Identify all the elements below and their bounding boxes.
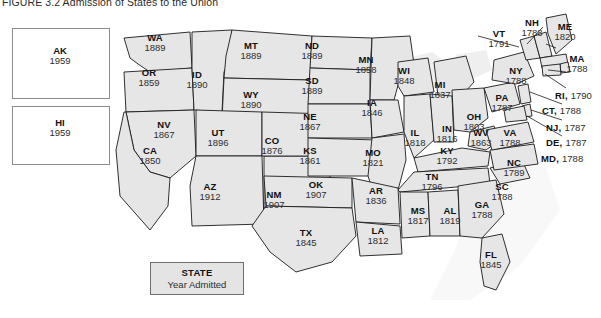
state-label-nc[interactable]: NC 1789 (494, 158, 534, 178)
state-year-mn: 1858 (344, 65, 388, 75)
state-label-nm[interactable]: NM 1907 (252, 190, 296, 210)
state-year-ri: 1790 (571, 90, 592, 101)
state-label-or[interactable]: OR 1859 (127, 68, 171, 88)
state-year-ut: 1896 (198, 138, 238, 148)
state-year-in: 1816 (428, 134, 466, 144)
state-year-or: 1859 (127, 78, 171, 88)
state-label-ny[interactable]: NY 1788 (496, 66, 536, 86)
state-label-ct[interactable]: CT1788 (542, 101, 581, 117)
state-label-ar[interactable]: AR 1836 (356, 186, 396, 206)
legend-subtitle: Year Admitted (168, 279, 227, 290)
state-abbr-ct: CT (542, 105, 557, 116)
state-label-mn[interactable]: MN 1858 (344, 55, 388, 75)
state-year-va: 1788 (490, 138, 530, 148)
state-label-va[interactable]: VA 1788 (490, 128, 530, 148)
state-year-tn: 1796 (412, 182, 452, 192)
state-label-la[interactable]: LA 1812 (358, 226, 398, 246)
state-label-ma[interactable]: MA 1788 (557, 54, 597, 74)
state-label-tx[interactable]: TX 1845 (286, 228, 326, 248)
state-label-wy[interactable]: WY 1890 (229, 90, 273, 110)
state-label-ok[interactable]: OK 1907 (294, 180, 338, 200)
state-year-md: 1788 (562, 153, 583, 164)
state-year-mt: 1889 (229, 51, 273, 61)
state-label-mi[interactable]: MI 1837 (420, 80, 460, 100)
inset-year-hawaii: 1959 (36, 128, 84, 138)
state-label-ga[interactable]: GA 1788 (462, 200, 502, 220)
state-label-mt[interactable]: MT 1889 (229, 41, 273, 61)
state-year-wa: 1889 (133, 43, 177, 53)
state-label-ky[interactable]: KY 1792 (428, 146, 466, 166)
state-label-mo[interactable]: MO 1821 (352, 148, 394, 168)
us-map: .land{fill:#e6e6e6;stroke:#1a1a1a;stroke… (0, 0, 601, 318)
state-label-sd[interactable]: SD 1889 (290, 76, 334, 96)
state-label-fl[interactable]: FL 1845 (471, 250, 511, 270)
state-year-mi: 1837 (420, 90, 460, 100)
state-label-ca[interactable]: CA 1850 (130, 146, 170, 166)
state-year-ky: 1792 (428, 156, 466, 166)
state-year-de: 1787 (565, 137, 586, 148)
state-label-ut[interactable]: UT 1896 (198, 128, 238, 148)
state-label-ne[interactable]: NE 1867 (288, 112, 332, 132)
state-year-ny: 1788 (496, 76, 536, 86)
inset-label-alaska: AK 1959 (36, 46, 84, 66)
state-year-ga: 1788 (462, 210, 502, 220)
state-label-nd[interactable]: ND 1889 (290, 41, 334, 61)
state-abbr-nj: NJ (546, 122, 561, 133)
state-year-ok: 1907 (294, 190, 338, 200)
state-year-wy: 1890 (229, 100, 273, 110)
state-label-az[interactable]: AZ 1912 (190, 182, 230, 202)
state-year-ia: 1846 (352, 108, 392, 118)
legend-title: STATE (181, 267, 212, 278)
state-year-ar: 1836 (356, 196, 396, 206)
state-year-tx: 1845 (286, 238, 326, 248)
state-label-nv[interactable]: NV 1867 (142, 120, 186, 140)
state-year-az: 1912 (190, 192, 230, 202)
state-label-me[interactable]: ME 1820 (545, 22, 585, 42)
state-year-ne: 1867 (288, 122, 332, 132)
state-year-nd: 1889 (290, 51, 334, 61)
inset-label-hawaii: HI 1959 (36, 118, 84, 138)
state-label-de[interactable]: DE1787 (546, 133, 587, 149)
state-abbr-md: MD (541, 153, 559, 164)
state-year-wi: 1848 (384, 76, 424, 86)
state-year-mo: 1821 (352, 158, 394, 168)
state-year-ma: 1788 (557, 64, 597, 74)
state-year-ca: 1850 (130, 156, 170, 166)
state-label-ri[interactable]: RI1790 (555, 86, 592, 102)
state-label-ks[interactable]: KS 1861 (288, 146, 332, 166)
state-year-nv: 1867 (142, 130, 186, 140)
state-year-ks: 1861 (288, 156, 332, 166)
state-label-wa[interactable]: WA 1889 (133, 33, 177, 53)
state-year-ct: 1788 (560, 105, 581, 116)
state-year-la: 1812 (358, 236, 398, 246)
inset-year-alaska: 1959 (36, 56, 84, 66)
state-label-tn[interactable]: TN 1796 (412, 172, 452, 192)
state-year-nc: 1789 (494, 168, 534, 178)
state-label-pa[interactable]: PA 1787 (482, 93, 522, 113)
map-legend: STATE Year Admitted (150, 262, 244, 295)
state-abbr-de: DE (546, 137, 562, 148)
state-year-me: 1820 (545, 32, 585, 42)
state-label-md[interactable]: MD1788 (541, 149, 583, 165)
state-year-fl: 1845 (471, 260, 511, 270)
state-label-ia[interactable]: IA 1846 (352, 98, 392, 118)
state-year-vt: 1791 (479, 39, 519, 49)
state-label-id[interactable]: ID 1890 (177, 70, 217, 90)
state-abbr-ri: RI (555, 90, 568, 101)
state-year-nj: 1787 (564, 122, 585, 133)
state-label-wi[interactable]: WI 1848 (384, 66, 424, 86)
state-year-id: 1890 (177, 80, 217, 90)
state-year-pa: 1787 (482, 103, 522, 113)
state-year-sd: 1889 (290, 86, 334, 96)
state-label-nj[interactable]: NJ1787 (546, 118, 586, 134)
state-year-nm: 1907 (252, 200, 296, 210)
